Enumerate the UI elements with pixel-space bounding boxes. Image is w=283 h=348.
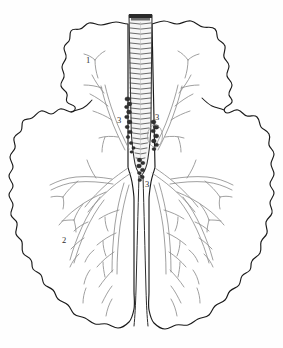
label-2: 2 <box>62 235 66 245</box>
label-1: 1 <box>86 55 90 65</box>
lungs-anatomy-illustration: 1 2 3 3 3 <box>0 0 283 348</box>
label-3-carinal: 3 <box>145 179 149 189</box>
label-3-right: 3 <box>155 112 159 122</box>
label-3-left: 3 <box>117 115 121 125</box>
trachea-cut-end <box>129 14 152 18</box>
anatomy-figure: 1 2 3 3 3 <box>0 0 283 348</box>
trachea-cut-end-inner <box>131 18 150 21</box>
